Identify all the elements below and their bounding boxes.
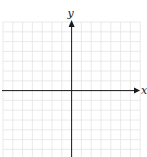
x-axis-label: x xyxy=(141,84,147,97)
y-axis-arrow-icon xyxy=(69,20,75,27)
y-axis-label: y xyxy=(67,7,75,20)
coordinate-plane: x y xyxy=(0,0,147,157)
x-axis-arrow-icon xyxy=(134,88,140,94)
